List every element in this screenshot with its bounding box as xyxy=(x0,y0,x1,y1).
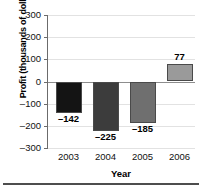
bar-value-label-2004: –225 xyxy=(95,132,116,142)
bar-value-label-2005: –185 xyxy=(132,124,153,134)
y-tick-mark xyxy=(44,104,48,105)
y-gridline xyxy=(48,37,195,38)
y-gridline xyxy=(48,126,195,127)
y-tick-label: 0 xyxy=(36,77,41,87)
y-tick-label: 300 xyxy=(25,10,41,20)
profit-by-year-bar-chart: Profit (thousands of dollars) 3002001000… xyxy=(0,0,202,189)
y-tick-label: 100 xyxy=(25,55,41,65)
bar-value-label-2003: –142 xyxy=(58,114,79,124)
plot-area: 3002001000–100–200–300–1422003–2252004–1… xyxy=(47,15,195,148)
x-axis-title: Year xyxy=(47,168,195,179)
bottom-divider xyxy=(3,183,199,185)
x-tick-label-2006: 2006 xyxy=(169,152,190,162)
bar-2006 xyxy=(167,64,193,81)
bar-2005 xyxy=(130,82,156,123)
y-gridline xyxy=(48,148,195,149)
y-tick-label: –300 xyxy=(20,143,41,153)
x-tick-label-2003: 2003 xyxy=(58,152,79,162)
y-gridline xyxy=(48,15,195,16)
x-tick-label-2004: 2004 xyxy=(95,152,116,162)
y-tick-label: –200 xyxy=(20,121,41,131)
y-tick-mark xyxy=(44,15,48,16)
y-tick-mark xyxy=(44,59,48,60)
y-gridline xyxy=(48,59,195,60)
y-tick-label: –100 xyxy=(20,99,41,109)
bar-value-label-2006: 77 xyxy=(174,52,185,62)
y-tick-mark xyxy=(44,82,48,83)
y-tick-mark xyxy=(44,126,48,127)
y-tick-label: 200 xyxy=(25,32,41,42)
y-tick-mark xyxy=(44,148,48,149)
x-tick-label-2005: 2005 xyxy=(132,152,153,162)
y-tick-mark xyxy=(44,37,48,38)
bar-2004 xyxy=(93,82,119,132)
bar-2003 xyxy=(56,82,82,113)
